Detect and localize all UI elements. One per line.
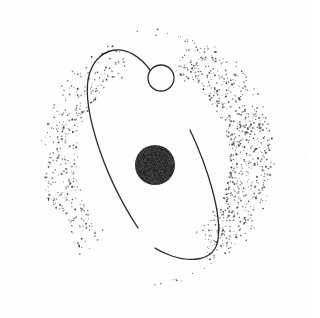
stipple-dot xyxy=(236,192,237,193)
stipple-dot xyxy=(186,76,187,77)
stipple-dot xyxy=(85,241,86,242)
stipple-dot xyxy=(53,198,54,199)
stipple-dot xyxy=(236,183,238,185)
stipple-dot xyxy=(45,189,46,190)
stipple-dot xyxy=(63,181,64,182)
stipple-dot xyxy=(67,160,68,161)
stipple-dot xyxy=(207,48,209,50)
stipple-dot xyxy=(241,184,242,185)
stipple-dot xyxy=(221,233,222,234)
stipple-dot xyxy=(71,171,72,172)
stipple-dot xyxy=(225,189,227,191)
stipple-dot xyxy=(260,199,262,201)
stipple-dot xyxy=(212,211,214,213)
stipple-dot xyxy=(53,116,55,118)
stipple-dot xyxy=(85,87,86,88)
stipple-dot xyxy=(176,280,178,282)
stipple-dot xyxy=(65,139,66,140)
stipple-dot xyxy=(68,113,70,115)
stipple-dot xyxy=(60,164,61,165)
stipple-dot xyxy=(248,167,249,168)
stipple-dot xyxy=(77,74,79,76)
stipple-dot xyxy=(206,75,208,77)
stipple-dot xyxy=(254,140,255,141)
stipple-dot xyxy=(63,127,65,129)
stipple-dot xyxy=(56,110,58,112)
stipple-dot xyxy=(66,188,68,190)
stipple-dot xyxy=(65,197,66,198)
stipple-dot xyxy=(238,188,240,190)
stipple-dot xyxy=(231,210,232,211)
stipple-dot xyxy=(222,220,223,221)
stipple-dot xyxy=(240,99,241,100)
stipple-dot xyxy=(69,146,71,148)
stipple-dot xyxy=(76,130,78,132)
stipple-dot xyxy=(202,73,203,74)
stipple-dot xyxy=(210,241,211,242)
stipple-dot xyxy=(229,125,230,126)
stipple-dot xyxy=(92,90,94,92)
stipple-dot xyxy=(48,194,50,196)
stipple-dot xyxy=(259,126,260,127)
stipple-dot xyxy=(91,93,92,94)
stipple-dot xyxy=(271,138,273,140)
stipple-dot xyxy=(137,30,139,32)
stipple-dot xyxy=(209,258,211,260)
stipple-dot xyxy=(257,162,258,163)
stipple-dot xyxy=(95,91,97,93)
stipple-dot xyxy=(61,114,63,116)
stipple-dot xyxy=(213,255,215,257)
stipple-dot xyxy=(71,225,73,227)
stipple-dot xyxy=(220,209,222,211)
stipple-dot xyxy=(260,175,261,176)
stipple-dot xyxy=(261,189,263,191)
stipple-dot xyxy=(252,94,253,95)
stipple-dot xyxy=(236,237,238,239)
stipple-dot xyxy=(226,89,228,91)
stipple-dot xyxy=(66,186,68,188)
stipple-dot xyxy=(69,87,70,88)
stipple-dot xyxy=(68,128,69,129)
stipple-dot xyxy=(70,222,71,223)
stipple-dot xyxy=(62,196,63,197)
stipple-dot xyxy=(245,207,246,208)
stipple-dot xyxy=(249,136,250,137)
stipple-dot xyxy=(181,280,182,281)
stipple-dot xyxy=(233,83,235,85)
stipple-dot xyxy=(263,176,265,178)
stipple-dot xyxy=(245,194,247,196)
stipple-dot xyxy=(226,131,227,132)
stipple-dot xyxy=(205,57,207,59)
stipple-dot xyxy=(244,146,246,148)
stipple-dot xyxy=(240,139,242,141)
stipple-dot xyxy=(205,94,206,95)
stipple-dot xyxy=(262,208,264,210)
stipple-dot xyxy=(53,107,55,109)
stipple-dot xyxy=(77,115,78,116)
stipple-dot xyxy=(44,176,46,178)
stipple-dot xyxy=(254,196,255,197)
stipple-dot xyxy=(68,219,69,220)
stipple-dot xyxy=(99,77,100,78)
stipple-dot xyxy=(250,188,251,189)
stipple-dot xyxy=(244,131,246,133)
stipple-dot xyxy=(90,102,92,104)
stipple-dot xyxy=(237,206,238,207)
stipple-dot xyxy=(265,117,267,119)
stipple-dot xyxy=(237,128,239,130)
stipple-dot xyxy=(187,41,188,42)
stipple-dot xyxy=(88,218,89,219)
stipple-dot xyxy=(102,81,104,83)
stipple-dot xyxy=(194,68,195,69)
stipple-dot xyxy=(252,197,253,198)
stipple-dot xyxy=(48,200,49,201)
stipple-dot xyxy=(252,106,253,107)
stipple-dot xyxy=(233,170,234,171)
stipple-dot xyxy=(263,182,264,183)
stipple-dot xyxy=(225,96,227,98)
stipple-dot xyxy=(232,125,233,126)
stipple-dot xyxy=(210,93,211,94)
stipple-dot xyxy=(190,62,191,63)
stipple-dot xyxy=(249,161,250,162)
stipple-dot xyxy=(94,235,96,237)
